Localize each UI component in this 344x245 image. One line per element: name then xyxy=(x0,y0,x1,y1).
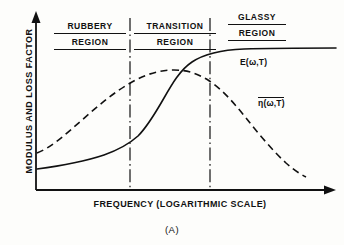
figure-caption: (A) xyxy=(0,224,344,235)
x-axis xyxy=(36,186,336,195)
x-axis-title: FREQUENCY (LOGARITHMIC SCALE) xyxy=(35,199,325,209)
curve-annotation-loss-factor: η(ω,T) xyxy=(258,98,285,108)
region-label-transition-line2: REGION xyxy=(134,36,216,50)
region-label-glassy-line2: REGION xyxy=(228,27,286,41)
curve-annotation-loss-factor-text: η(ω,T) xyxy=(258,98,285,108)
overbar-icon xyxy=(258,97,284,98)
region-label-transition: TRANSITION REGION xyxy=(134,20,216,50)
x-axis-arrow-icon xyxy=(324,186,336,195)
region-label-glassy: GLASSY REGION xyxy=(228,11,286,41)
region-label-glassy-line1: GLASSY xyxy=(228,11,286,25)
y-axis-title: MODULUS AND LOSS FACTOR xyxy=(24,11,34,191)
region-label-transition-line1: TRANSITION xyxy=(134,20,216,34)
region-label-rubbery: RUBBERY REGION xyxy=(54,20,126,50)
region-label-rubbery-line2: REGION xyxy=(54,36,126,50)
region-label-rubbery-line1: RUBBERY xyxy=(54,20,126,34)
figure-container: MODULUS AND LOSS FACTOR RUBBERY REGION T… xyxy=(0,0,344,245)
curve-annotation-modulus: E(ω,T) xyxy=(240,57,267,67)
overbar-wrapper: η(ω,T) xyxy=(258,98,285,108)
curve-modulus-solid xyxy=(37,48,336,169)
